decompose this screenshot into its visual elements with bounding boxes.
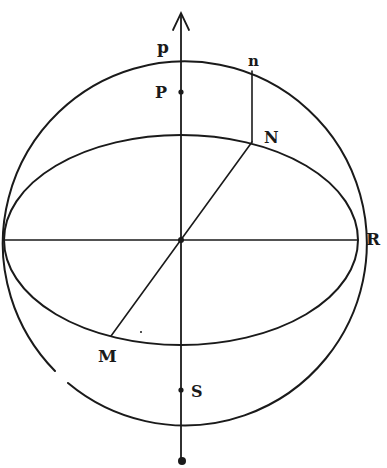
point-center [178, 237, 184, 243]
label-P: P [155, 83, 167, 102]
label-p: p [157, 37, 169, 57]
label-N: N [264, 128, 279, 147]
label-n: n [248, 52, 259, 70]
outer-circle [3, 61, 367, 425]
label-R: R [366, 229, 381, 249]
point-S [178, 387, 183, 392]
stray-dot [140, 331, 142, 333]
label-S: S [191, 382, 203, 401]
point-P [178, 89, 183, 94]
sphere-diagram: p P n N R M S [0, 0, 387, 468]
label-M: M [98, 346, 117, 366]
diagram-canvas: p P n N R M S [0, 0, 387, 468]
point-bottom [178, 457, 186, 465]
